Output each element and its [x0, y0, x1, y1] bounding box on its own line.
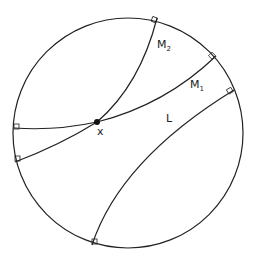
geodesic-m2	[15, 18, 157, 162]
geodesic-m1	[14, 56, 216, 129]
geodesic-l	[92, 90, 234, 245]
right-angle-marker	[151, 16, 157, 22]
disk-boundary	[13, 18, 243, 248]
label-m2: M2	[157, 38, 171, 53]
poincare-disk-diagram: x M2 M1 L	[0, 0, 256, 267]
label-x: x	[97, 125, 104, 138]
label-m1: M1	[190, 78, 204, 93]
label-l: L	[166, 112, 173, 125]
